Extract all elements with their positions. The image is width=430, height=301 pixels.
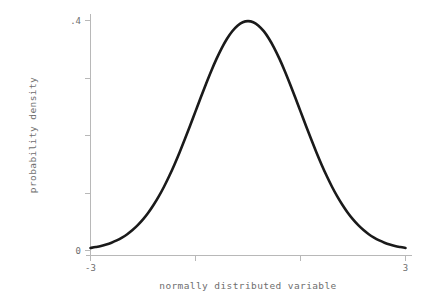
y-tick-label-min: 0: [76, 246, 81, 256]
x-tick-label-max: 3: [403, 263, 408, 273]
x-axis-title: normally distributed variable: [159, 280, 336, 291]
x-tick-label-min: -3: [85, 263, 96, 273]
y-axis-title: probability density: [27, 77, 38, 193]
normal-distribution-chart: .4 0 -3 3 normally distributed variable …: [0, 0, 430, 301]
y-tick-label-max: .4: [70, 16, 81, 26]
